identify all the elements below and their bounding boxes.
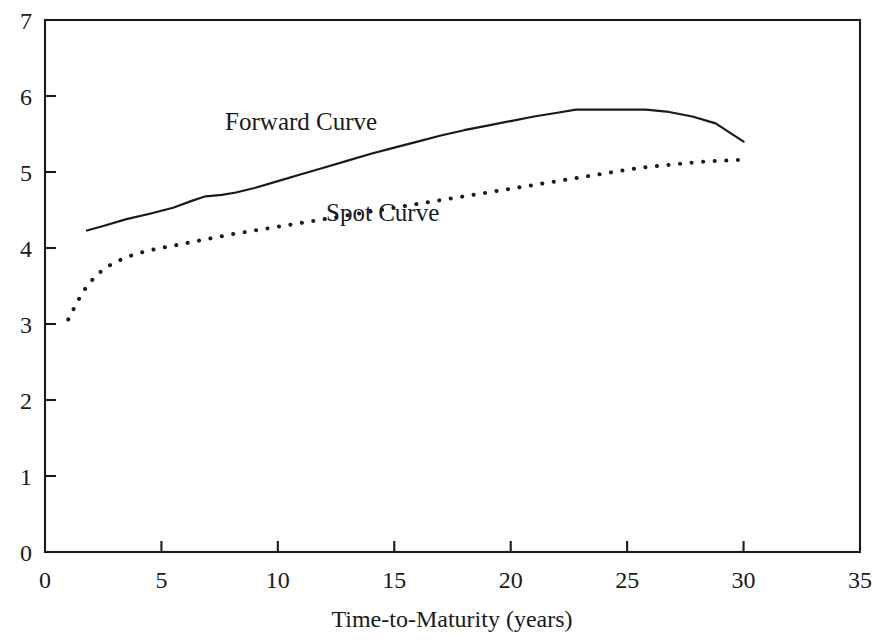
x-axis-title: Time-to-Maturity (years)	[331, 606, 572, 632]
spot-curve-line	[68, 160, 743, 320]
x-tick-label: 10	[266, 567, 290, 593]
x-tick-label: 20	[499, 567, 523, 593]
y-tick-label: 7	[20, 8, 32, 34]
yield-curve-chart: 01234567 05101520253035 Forward Curve Sp…	[0, 0, 878, 643]
x-tick-label: 25	[615, 567, 639, 593]
y-tick-label: 1	[20, 464, 32, 490]
chart-container: 01234567 05101520253035 Forward Curve Sp…	[0, 0, 878, 643]
x-axis-ticks	[161, 541, 743, 552]
x-tick-label: 30	[732, 567, 756, 593]
forward-curve-label: Forward Curve	[225, 108, 377, 135]
x-tick-label: 5	[155, 567, 167, 593]
y-tick-label: 6	[20, 84, 32, 110]
y-tick-label: 0	[20, 540, 32, 566]
x-tick-label: 0	[39, 567, 51, 593]
y-tick-label: 4	[20, 236, 32, 262]
y-tick-label: 5	[20, 160, 32, 186]
y-axis-ticks	[45, 96, 56, 476]
plot-frame	[45, 20, 860, 552]
x-axis-tick-labels: 05101520253035	[39, 567, 872, 593]
y-tick-label: 3	[20, 312, 32, 338]
y-axis-tick-labels: 01234567	[20, 8, 32, 566]
spot-curve-label: Spot Curve	[326, 199, 439, 226]
x-tick-label: 15	[382, 567, 406, 593]
x-tick-label: 35	[848, 567, 872, 593]
y-tick-label: 2	[20, 388, 32, 414]
